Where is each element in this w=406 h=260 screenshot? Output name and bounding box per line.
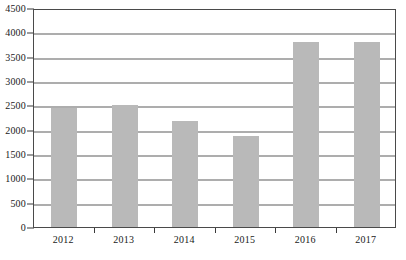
- y-axis-tick-label: 3000: [0, 77, 26, 87]
- bar-chart: 050010001500200025003000350040004500 201…: [0, 0, 406, 260]
- x-axis-tick-label: 2013: [113, 234, 134, 245]
- x-axis-tick-mark: [94, 228, 95, 233]
- y-axis-label-group: 050010001500200025003000350040004500: [0, 0, 26, 260]
- y-axis-tick-label: 1500: [0, 150, 26, 160]
- y-axis-tick-label: 4500: [0, 4, 26, 14]
- y-axis-tick-label: 4000: [0, 28, 26, 38]
- x-axis-tick-mark: [336, 228, 337, 233]
- y-axis-tick-label: 2500: [0, 101, 26, 111]
- x-axis-tick-mark: [275, 228, 276, 233]
- y-axis-tick-label: 2000: [0, 126, 26, 136]
- x-axis-tick-mark: [154, 228, 155, 233]
- x-axis-tick-mark: [215, 228, 216, 233]
- x-axis-tick-label: 2012: [53, 234, 74, 245]
- x-axis-tick-label: 2015: [234, 234, 255, 245]
- bar: [293, 42, 319, 227]
- y-axis-tick-label: 0: [0, 223, 26, 233]
- y-axis-tick-label: 3500: [0, 53, 26, 63]
- bar-group: [34, 10, 395, 227]
- x-axis-tick-label: 2014: [174, 234, 195, 245]
- x-axis-tick-label: 2016: [295, 234, 316, 245]
- plot-area: [33, 9, 396, 228]
- bar: [51, 108, 77, 227]
- bar: [172, 121, 198, 227]
- x-axis-tick-label: 2017: [355, 234, 376, 245]
- x-axis-label-group: 201220132014201520162017: [33, 234, 396, 254]
- y-axis-tick-label: 1000: [0, 174, 26, 184]
- bar: [233, 136, 259, 227]
- y-axis-tick-label: 500: [0, 199, 26, 209]
- bar: [354, 42, 380, 227]
- bar: [112, 105, 138, 227]
